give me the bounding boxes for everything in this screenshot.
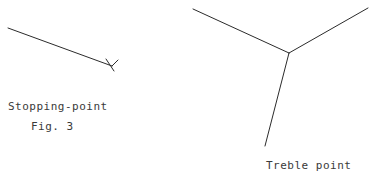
treble-point-label: Treble point — [266, 160, 351, 172]
treble-point-diagram — [193, 8, 368, 146]
treble-point-branch-upper-right — [289, 8, 368, 53]
figure-canvas — [0, 0, 371, 173]
treble-point-branch-lower — [265, 53, 289, 146]
stopping-point-terminal-barb-icon — [112, 60, 118, 66]
stopping-point-label: Stopping-point — [8, 101, 108, 113]
figure-number-label: Fig. 3 — [31, 121, 74, 133]
stopping-point-main-line — [8, 28, 112, 66]
stopping-point-diagram — [8, 28, 118, 71]
treble-point-branch-upper-left — [193, 9, 289, 53]
